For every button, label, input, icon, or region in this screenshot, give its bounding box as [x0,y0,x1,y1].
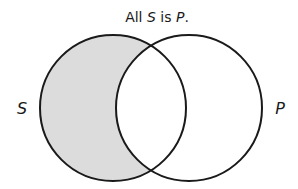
shaded-region-s-not-p [0,0,298,189]
title-middle: is [156,9,176,25]
title-prefix: All [125,9,147,25]
label-p: P [275,99,285,118]
title-suffix: . [184,9,188,25]
title-subject: S [147,9,156,25]
diagram-title: All S is P. [125,9,189,25]
venn-diagram: All S is P. S P [0,0,298,189]
label-s: S [17,99,27,118]
